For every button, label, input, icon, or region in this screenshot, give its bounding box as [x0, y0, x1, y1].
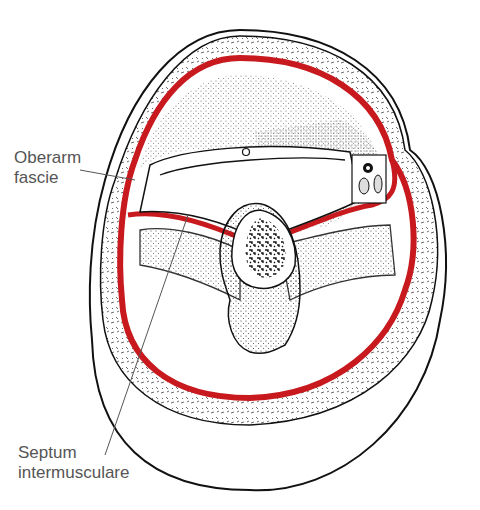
label-line: fascie [14, 168, 81, 188]
arm-cross-section-illustration [0, 0, 480, 510]
label-oberarm-fascie: Oberarm fascie [14, 148, 81, 188]
label-line: intermusculare [18, 463, 130, 483]
label-septum-intermusculare: Septum intermusculare [18, 443, 130, 483]
label-line: Septum [18, 443, 130, 463]
label-line: Oberarm [14, 148, 81, 168]
